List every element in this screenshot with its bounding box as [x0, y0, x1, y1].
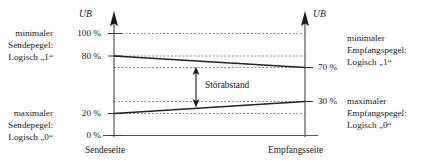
noise-margin-label: Störabstand	[205, 80, 249, 90]
left-high-line-3: Logisch „1“	[0, 52, 53, 64]
right-axis-title: UB	[313, 8, 326, 19]
bottom-label-sender: Sendeseite	[85, 145, 125, 155]
signal-level-diagram: UB UB 100 % 80 % 20 % 0 % 70 % 30 % mini…	[0, 0, 425, 167]
tick-label-right-70: 70 %	[318, 62, 337, 72]
tick-label-right-30: 30 %	[318, 96, 337, 106]
tick-label-left-80: 80 %	[56, 51, 101, 61]
high-level-signal-line	[114, 56, 305, 68]
left-low-line-3: Logisch „0“	[0, 132, 53, 144]
tick-label-left-0: 0 %	[56, 130, 101, 140]
left-low-line-1: maximaler	[0, 108, 53, 120]
bottom-label-receiver: Empfangsseite	[268, 145, 323, 155]
right-high-line-2: Empfangspegel:	[347, 45, 407, 57]
left-high-line-1: minimaler	[0, 28, 53, 40]
right-low-line-2: Empfangspegel:	[347, 108, 407, 120]
left-low-level-annotation: maximaler Sendepegel: Logisch „0“	[0, 108, 53, 143]
tick-label-left-20: 20 %	[56, 108, 101, 118]
right-low-level-annotation: maximaler Empfangspegel: Logisch „0“	[347, 96, 407, 131]
left-low-line-2: Sendepegel:	[0, 120, 53, 132]
right-high-line-3: Logisch „1“	[347, 57, 407, 69]
left-axis-title: UB	[79, 8, 92, 19]
left-high-level-annotation: minimaler Sendepegel: Logisch „1“	[0, 28, 53, 63]
right-low-line-3: Logisch „0“	[347, 120, 407, 132]
low-level-signal-line	[114, 102, 305, 114]
right-high-line-1: minimaler	[347, 33, 407, 45]
right-low-line-1: maximaler	[347, 96, 407, 108]
right-high-level-annotation: minimaler Empfangspegel: Logisch „1“	[347, 33, 407, 68]
tick-label-left-100: 100 %	[56, 28, 101, 38]
left-high-line-2: Sendepegel:	[0, 40, 53, 52]
